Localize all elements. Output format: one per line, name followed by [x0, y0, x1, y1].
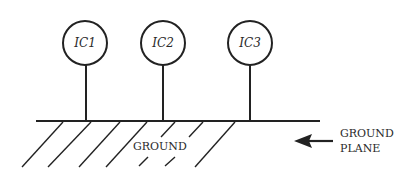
- arrow-left-icon: [294, 134, 333, 148]
- ic1-label: IC1: [73, 36, 96, 50]
- ground-label: GROUND: [133, 140, 187, 153]
- ic3-component: IC3: [228, 21, 272, 121]
- ground-plane-diagram: IC1 IC2 IC3 GROUND GROUND PLANE: [0, 0, 413, 178]
- ground-plane-label-line2: PLANE: [340, 142, 380, 155]
- ic2-label: IC2: [151, 36, 174, 50]
- ic2-component: IC2: [141, 21, 185, 121]
- ic1-component: IC1: [63, 21, 107, 121]
- ground-hatching: [22, 122, 235, 167]
- ground-plane-label-line1: GROUND: [340, 127, 394, 140]
- ic3-label: IC3: [238, 36, 261, 50]
